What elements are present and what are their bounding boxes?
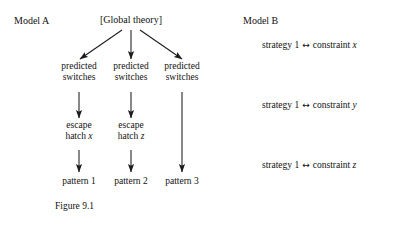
relation-3-left: strategy 1 [262, 160, 299, 170]
relation-1-variable: x [353, 40, 357, 50]
relation-3-variable: z [353, 160, 357, 170]
global-theory-root: [Global theory] [85, 14, 177, 25]
relation-2-right: constraint [313, 100, 350, 110]
arrow-root-to-predicted-1 [80, 30, 122, 59]
relation-1-left: strategy 1 [262, 40, 299, 50]
relation-row-1: strategy 1↔constraint x [262, 40, 357, 50]
escape-hatch-2-line1: escape [96, 120, 166, 131]
relation-row-2: strategy 1↔constraint y [262, 100, 357, 110]
pattern-3: pattern 3 [147, 176, 217, 187]
relation-2-variable: y [353, 100, 357, 110]
arrow-root-to-predicted-3 [140, 30, 182, 59]
model-b-title: Model B [243, 15, 278, 26]
escape-hatch-2: escape hatch z [96, 120, 166, 142]
relation-3-right: constraint [313, 160, 350, 170]
relation-2-left: strategy 1 [262, 100, 299, 110]
relation-1-right: constraint [313, 40, 350, 50]
figure-9-1: Model A [Global theory] predicted switch… [0, 0, 405, 233]
bidirectional-arrow-icon: ↔ [299, 100, 313, 110]
predicted-switches-3: predicted switches [147, 61, 217, 83]
escape-hatch-2-variable: z [141, 131, 145, 141]
predicted-switches-3-line2: switches [147, 72, 217, 83]
relation-row-3: strategy 1↔constraint z [262, 160, 356, 170]
escape-hatch-1-variable: x [88, 131, 92, 141]
connector-layer [0, 0, 405, 233]
model-a-title: Model A [14, 15, 49, 26]
escape-hatch-2-line2: hatch z [96, 131, 166, 142]
bidirectional-arrow-icon: ↔ [299, 40, 313, 50]
predicted-switches-3-line1: predicted [147, 61, 217, 72]
figure-caption: Figure 9.1 [55, 201, 94, 211]
bidirectional-arrow-icon: ↔ [299, 160, 313, 170]
